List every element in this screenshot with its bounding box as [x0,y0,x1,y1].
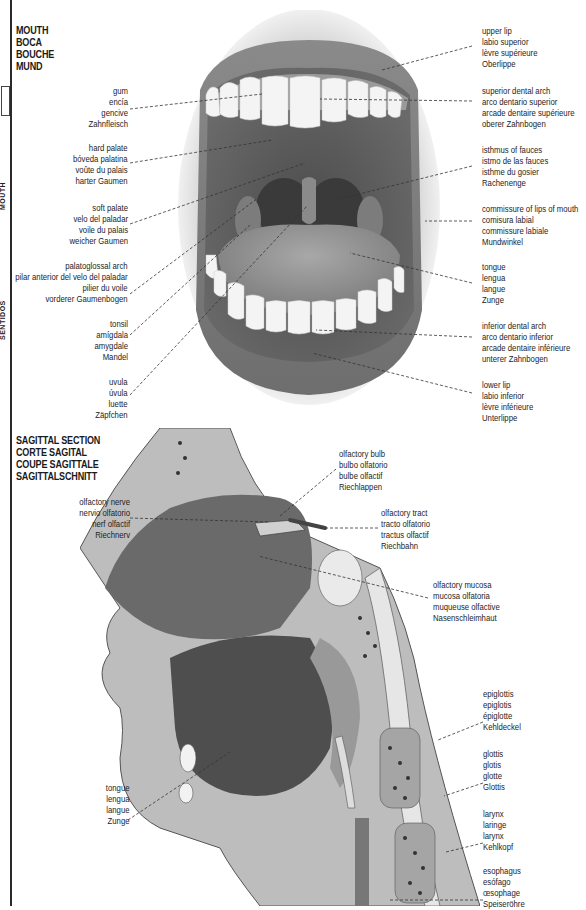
label-line-de: Kehldeckel [483,722,521,733]
label-tongue: tongue lengua langue Zunge [482,262,506,306]
label-line-es: velo del paladar [69,214,128,225]
label-line-fr: commissure labiale [482,226,578,237]
label-line-fr: muqueuse olfactive [433,602,500,613]
incisor-upper [180,744,196,772]
label-line-es: epiglotis [483,700,521,711]
margin-side-text-bottom: SENTIDOS [0,230,9,340]
label-line-de: Nasenschleimhaut [433,613,500,624]
label-line-fr: gencive [88,108,128,119]
label-line-de: Zäpfchen [96,410,128,421]
label-line-fr: bulbe olfactif [339,471,388,482]
label-gum: gum encía gencive Zahnfleisch [88,86,128,130]
label-line-es: comisura labial [482,215,578,226]
label-line-fr: œsophage [483,888,525,899]
label-line-es: arco dentario superior [482,97,575,108]
label-line-en: tongue [106,783,130,794]
label-line-de: harter Gaumen [73,176,128,187]
label-tonsil: tonsil amígdala amygdale Mandel [94,319,128,363]
label-line-es: úvula [96,388,128,399]
label-line-es: lengua [482,273,506,284]
label-line-de: Speiseröhre [483,899,525,910]
label-line-es: tracto olfatorio [381,519,430,530]
label-larynx: larynx laringe larynx Kehlkopf [483,809,513,853]
label-epiglottis: epiglottis epiglotis épiglotte Kehldecke… [483,689,521,733]
label-line-en: hard palate [73,143,128,154]
label-line-fr: arcade dentaire supérieure [482,108,575,119]
label-palatoglossal-arch: palatoglossal arch pilar anterior del ve… [16,261,128,305]
margin-side-text-top: MOUTH [0,130,9,210]
label-line-de: Oberlippe [482,59,538,70]
label-line-de: unterer Zahnbogen [482,354,570,365]
label-line-en: gum [88,86,128,97]
label-line-fr: voile du palais [69,225,128,236]
label-line-de: oberer Zahnbogen [482,119,575,130]
label-line-fr: luette [96,399,128,410]
mouth-heading-en: MOUTH [16,24,54,36]
mouth-heading-fr: BOUCHE [16,48,54,60]
label-line-es: encía [88,97,128,108]
label-olfactory-mucosa: olfactory mucosa mucosa olfatoria muqueu… [433,580,500,624]
label-olfactory-tract: olfactory tract tracto olfatorio tractus… [381,508,430,552]
label-hard-palate: hard palate bóveda palatina voûte du pal… [73,143,128,187]
label-line-de: Zahnfleisch [88,119,128,130]
sphenoid-sinus [318,550,362,606]
sagittal-heading-en: SAGITTAL SECTION [16,434,100,446]
label-line-de: Riechlappen [339,482,388,493]
label-line-en: tonsil [94,319,128,330]
label-line-fr: isthme du gosier [482,167,548,178]
sagittal-heading-de: SAGITTALSCHNITT [16,470,100,482]
label-line-de: Mundwinkel [482,237,578,248]
label-line-de: vorderer Gaumenbogen [16,294,128,305]
label-line-fr: voûte du palais [73,165,128,176]
label-line-en: palatoglossal arch [16,261,128,272]
label-line-es: glotis [483,760,505,771]
sagittal-heading: SAGITTAL SECTION CORTE SAGITAL COUPE SAG… [16,434,100,482]
label-superior-dental-arch: superior dental arch arco dentario super… [482,86,575,130]
label-line-de: Glottis [483,782,505,793]
label-line-fr: glotte [483,771,505,782]
label-inferior-dental-arch: inferior dental arch arco dentario infer… [482,321,570,365]
label-glottis: glottis glotis glotte Glottis [483,749,505,793]
label-line-fr: langue [482,284,506,295]
label-line-de: weicher Gaumen [69,236,128,247]
label-line-fr: arcade dentaire inférieure [482,343,570,354]
label-line-es: pilar anterior del velo del paladar [16,272,128,283]
label-line-es: esófago [483,877,525,888]
label-line-fr: langue [106,805,130,816]
incisor-lower [179,783,193,803]
label-olfactory-bulb: olfactory bulb bulbo olfatorio bulbe olf… [339,449,388,493]
label-line-es: laringe [483,820,513,831]
label-olfactory-nerve: olfactory nerve nervio olfatorio nerf ol… [79,497,130,541]
label-upper-lip: upper lip labio superior lèvre supérieur… [482,26,538,70]
label-line-de: Unterlippe [482,413,533,424]
margin-divider [10,0,12,906]
label-line-en: olfactory tract [381,508,430,519]
label-line-es: istmo de las fauces [482,156,548,167]
label-line-en: larynx [483,809,513,820]
label-line-de: Kehlkopf [483,842,513,853]
label-line-de: Rachenenge [482,178,548,189]
label-line-en: soft palate [69,203,128,214]
label-line-en: esophagus [483,866,525,877]
label-line-es: amígdala [94,330,128,341]
label-line-de: Mandel [94,352,128,363]
label-line-en: isthmus of fauces [482,145,548,156]
label-line-de: Zunge [482,295,506,306]
label-line-es: labio inferior [482,391,533,402]
label-line-en: uvula [96,377,128,388]
label-line-en: lower lip [482,380,533,391]
sagittal-section-illustration [80,428,480,906]
label-line-en: olfactory mucosa [433,580,500,591]
tongue-mass [170,636,333,797]
label-line-en: superior dental arch [482,86,575,97]
label-line-es: mucosa olfatoria [433,591,500,602]
label-sagittal-tongue: tongue lengua langue Zunge [106,783,130,827]
label-line-es: nervio olfatorio [79,508,130,519]
label-line-de: Zunge [106,816,130,827]
label-line-en: tongue [482,262,506,273]
label-line-es: bulbo olfatorio [339,460,388,471]
label-line-en: olfactory bulb [339,449,388,460]
label-line-en: upper lip [482,26,538,37]
label-line-fr: lèvre supérieure [482,48,538,59]
mouth-heading-de: MUND [16,60,54,72]
